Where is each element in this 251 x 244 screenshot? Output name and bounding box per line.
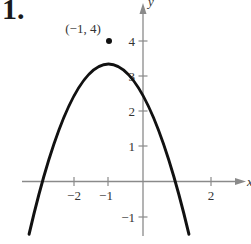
x-axis-arrow-icon xyxy=(235,178,246,185)
y-axis xyxy=(140,3,147,236)
x-tick-label: −1 xyxy=(99,188,113,203)
y-tick-label: 4 xyxy=(129,34,136,49)
x-tick-label: 2 xyxy=(208,188,215,203)
vertex-point xyxy=(106,38,112,44)
y-tick-label: 2 xyxy=(129,104,136,119)
x-axis-label: x xyxy=(246,174,251,189)
y-tick-label: 1 xyxy=(129,139,136,154)
x-axis xyxy=(22,178,246,185)
parabola-chart: −2 −1 2 4 3 2 1 −1 x y (−1, 4) xyxy=(0,0,251,244)
parabola-curve xyxy=(29,64,189,234)
y-tick-label: −1 xyxy=(121,210,135,225)
x-tick-label: −2 xyxy=(67,188,81,203)
y-axis-label: y xyxy=(146,0,154,9)
y-axis-arrow-icon xyxy=(140,3,147,14)
vertex-label: (−1, 4) xyxy=(65,21,101,36)
